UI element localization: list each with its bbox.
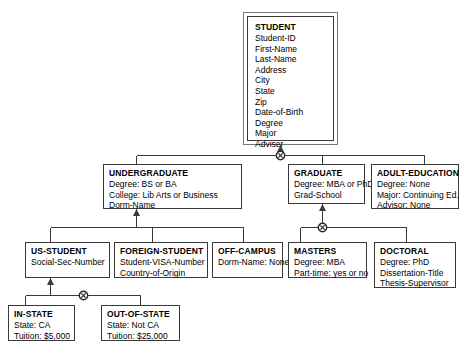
- entity-foreign-student-attr: Country-of-Origin: [120, 268, 202, 279]
- entity-student-attr: Degree: [255, 118, 326, 129]
- entity-out-of-state-attr: State: Not CA: [107, 320, 174, 331]
- entity-graduate-attr: Degree: MBA or PhD: [294, 179, 359, 190]
- entity-student-attr: Major: [255, 128, 326, 139]
- specialization-symbol-us-student: [79, 291, 87, 299]
- entity-undergraduate-title: UNDERGRADUATE: [109, 168, 236, 179]
- entity-student[interactable]: STUDENT Student-ID First-Name Last-Name …: [243, 12, 338, 145]
- entity-out-of-state-attr: Tuition: $25,000: [107, 331, 174, 342]
- entity-us-student-title: US-STUDENT: [31, 246, 104, 257]
- entity-adult-education-attr: Major: Continuing Ed.: [377, 190, 453, 201]
- entity-doctoral-attr: Thesis-Supervisor: [380, 278, 450, 289]
- arrowhead-to-graduate: [319, 204, 326, 211]
- entity-student-attr: First-Name: [255, 44, 326, 55]
- entity-masters-attr: Part-time: yes or no: [294, 268, 361, 279]
- entity-student-attr: Student-ID: [255, 33, 326, 44]
- entity-student-attr: City: [255, 75, 326, 86]
- entity-undergraduate-attr: Dorm-Name: [109, 200, 236, 211]
- entity-adult-education[interactable]: ADULT-EDUCATION Degree: None Major: Cont…: [371, 164, 459, 209]
- entity-student-title: STUDENT: [255, 22, 326, 33]
- entity-masters-title: MASTERS: [294, 246, 361, 257]
- entity-off-campus[interactable]: OFF-CAMPUS Dorm-Name: None: [212, 242, 283, 278]
- entity-off-campus-attr: Dorm-Name: None: [218, 257, 277, 268]
- entity-out-of-state[interactable]: OUT-OF-STATE State: Not CA Tuition: $25,…: [101, 305, 180, 341]
- entity-graduate[interactable]: GRADUATE Degree: MBA or PhD Grad-School: [288, 164, 365, 204]
- entity-adult-education-attr: Advisor: None: [377, 200, 453, 211]
- entity-foreign-student[interactable]: FOREIGN-STUDENT Student-VISA-Number Coun…: [114, 242, 208, 278]
- entity-student-frame: STUDENT Student-ID First-Name Last-Name …: [247, 16, 334, 141]
- entity-in-state[interactable]: IN-STATE State: CA Tuition: $5,000: [8, 305, 75, 341]
- entity-doctoral-attr: Dissertation-Title: [380, 268, 450, 279]
- entity-in-state-title: IN-STATE: [14, 309, 69, 320]
- entity-masters-attr: Degree: MBA: [294, 257, 361, 268]
- eer-diagram-canvas: STUDENT Student-ID First-Name Last-Name …: [0, 0, 464, 353]
- entity-doctoral-title: DOCTORAL: [380, 246, 450, 257]
- entity-foreign-student-attr: Student-VISA-Number: [120, 257, 202, 268]
- entity-foreign-student-title: FOREIGN-STUDENT: [120, 246, 202, 257]
- entity-us-student[interactable]: US-STUDENT Social-Sec-Number: [25, 242, 110, 278]
- entity-undergraduate-attr: College: Lib Arts or Business: [109, 190, 236, 201]
- entity-student-attr: State: [255, 86, 326, 97]
- entity-masters[interactable]: MASTERS Degree: MBA Part-time: yes or no: [288, 242, 367, 278]
- entity-student-attr: Zip: [255, 97, 326, 108]
- entity-adult-education-attr: Degree: None: [377, 179, 453, 190]
- entity-doctoral[interactable]: DOCTORAL Degree: PhD Dissertation-Title …: [374, 242, 456, 288]
- entity-graduate-title: GRADUATE: [294, 168, 359, 179]
- entity-off-campus-title: OFF-CAMPUS: [218, 246, 277, 257]
- arrowhead-to-us-student: [47, 278, 54, 285]
- entity-in-state-attr: Tuition: $5,000: [14, 331, 69, 342]
- entity-student-attr: Address: [255, 65, 326, 76]
- entity-student-attr: Adviser: [255, 139, 326, 150]
- specialization-symbol-graduate: [318, 223, 326, 231]
- entity-in-state-attr: State: CA: [14, 320, 69, 331]
- entity-undergraduate[interactable]: UNDERGRADUATE Degree: BS or BA College: …: [103, 164, 242, 209]
- specialization-symbol-student: [276, 151, 284, 159]
- entity-student-attr: Last-Name: [255, 54, 326, 65]
- entity-student-attr: Date-of-Birth: [255, 107, 326, 118]
- entity-doctoral-attr: Degree: PhD: [380, 257, 450, 268]
- entity-undergraduate-attr: Degree: BS or BA: [109, 179, 236, 190]
- entity-adult-education-title: ADULT-EDUCATION: [377, 168, 453, 179]
- entity-graduate-attr: Grad-School: [294, 190, 359, 201]
- entity-us-student-attr: Social-Sec-Number: [31, 257, 104, 268]
- entity-out-of-state-title: OUT-OF-STATE: [107, 309, 174, 320]
